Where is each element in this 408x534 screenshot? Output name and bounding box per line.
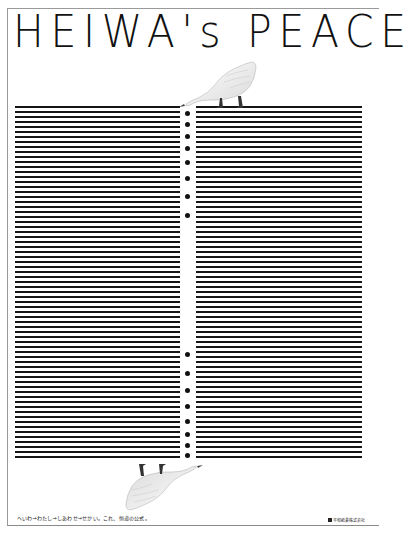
stripe-line — [15, 126, 180, 128]
stripe-line — [196, 391, 362, 393]
stripe-line — [15, 346, 180, 348]
stripe-line — [15, 416, 180, 418]
stripe-line — [15, 386, 180, 388]
stripe-line — [196, 351, 362, 353]
stripe-line — [15, 236, 180, 238]
stripe-line — [196, 396, 362, 398]
dot — [185, 432, 190, 437]
stripe-line — [15, 281, 180, 283]
stripe-line — [196, 331, 362, 333]
stripe-line — [15, 266, 180, 268]
stripe-line — [15, 286, 180, 288]
stripe-line — [196, 426, 362, 428]
stripe-line — [196, 366, 362, 368]
stripe-line — [15, 431, 180, 433]
stripe-line — [196, 326, 362, 328]
stripe-line — [15, 421, 180, 423]
stripe-line — [15, 261, 180, 263]
stripe-line — [196, 406, 362, 408]
stripe-line — [196, 216, 362, 218]
dot — [185, 404, 190, 409]
dot — [185, 160, 190, 165]
duck-top-illustration — [176, 60, 266, 110]
stripe-line — [196, 131, 362, 133]
stripe-line — [15, 111, 180, 113]
stripe-line — [196, 291, 362, 293]
stripe-line — [15, 316, 180, 318]
stripe-line — [196, 386, 362, 388]
dot — [185, 453, 190, 458]
stripe-line — [15, 136, 180, 138]
stripe-line — [196, 356, 362, 358]
stripe-line — [15, 201, 180, 203]
stripe-line — [196, 126, 362, 128]
stripe-line — [196, 451, 362, 453]
stripe-line — [196, 181, 362, 183]
stripe-line — [196, 146, 362, 148]
stripe-line — [15, 231, 180, 233]
stripe-line — [196, 186, 362, 188]
stripe-line — [15, 251, 180, 253]
dot — [185, 371, 190, 376]
stripe-line — [15, 256, 180, 258]
stripe-line — [196, 191, 362, 193]
stripe-line — [15, 451, 180, 453]
stripe-line — [196, 261, 362, 263]
stripe-line — [196, 111, 362, 113]
stripe-line — [15, 116, 180, 118]
stripe-line — [15, 291, 180, 293]
stripe-line — [15, 211, 180, 213]
stripe-line — [196, 316, 362, 318]
stripe-line — [196, 236, 362, 238]
dot — [185, 419, 190, 424]
stripe-line — [196, 241, 362, 243]
stripe-line — [15, 441, 180, 443]
dot — [185, 213, 190, 218]
dot — [185, 388, 190, 393]
stripe-line — [15, 341, 180, 343]
stripe-line — [15, 436, 180, 438]
stripe-line — [196, 136, 362, 138]
stripe-line — [196, 346, 362, 348]
stripe-line — [15, 271, 180, 273]
stripe-line — [196, 286, 362, 288]
stripe-line — [15, 181, 180, 183]
dot — [185, 111, 190, 116]
stripe-line — [196, 151, 362, 153]
stripe-line — [15, 216, 180, 218]
poster-title: HEIWA's PEACE — [13, 10, 408, 54]
stripe-line — [15, 406, 180, 408]
stripe-line — [15, 131, 180, 133]
stripe-line — [196, 446, 362, 448]
stripe-line — [196, 306, 362, 308]
stripe-line — [196, 196, 362, 198]
stripe-line — [196, 256, 362, 258]
stripe-line — [196, 321, 362, 323]
stripe-line — [196, 341, 362, 343]
stripe-line — [15, 141, 180, 143]
stripe-line — [15, 371, 180, 373]
stripe-line — [15, 396, 180, 398]
company-credit: 平和紙業株式会社 — [328, 517, 365, 523]
dot — [185, 443, 190, 448]
stripe-line — [196, 441, 362, 443]
stripe-line — [196, 456, 362, 458]
stripe-line — [196, 416, 362, 418]
dot — [185, 134, 190, 139]
stripe-line — [15, 186, 180, 188]
stripe-line — [15, 296, 180, 298]
stripe-line — [196, 276, 362, 278]
stripe-line — [196, 336, 362, 338]
stripe-line — [15, 351, 180, 353]
stripe-line — [15, 306, 180, 308]
stripe-line — [15, 376, 180, 378]
stripe-line — [15, 391, 180, 393]
stripe-line — [196, 271, 362, 273]
stripe-line — [15, 426, 180, 428]
stripe-line — [196, 211, 362, 213]
stripe-line — [196, 121, 362, 123]
stripe-line — [15, 276, 180, 278]
stripe-line — [15, 191, 180, 193]
stripe-line — [15, 166, 180, 168]
stripe-line — [196, 156, 362, 158]
